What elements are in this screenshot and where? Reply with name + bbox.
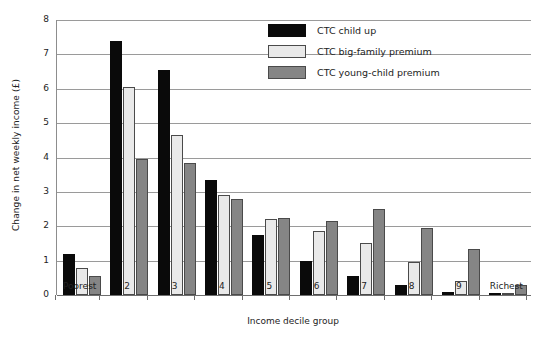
bar [184,163,196,295]
bar-group [110,20,148,295]
x-axis-tick-label: 5 [246,281,293,291]
x-axis-tick [99,295,100,300]
x-axis-tick-label: 9 [435,281,482,291]
x-axis-tick-label: Poorest [56,281,103,291]
y-axis-tick-label: 6 [27,83,49,93]
x-axis-tick-label: 3 [151,281,198,291]
bar [489,293,501,295]
legend-swatch-icon [268,45,306,58]
bar-chart-figure: Change in net weekly income (£) 01234567… [0,0,552,341]
x-axis-title: Income decile group [56,316,530,326]
bar-group [489,20,527,295]
bar [136,159,148,295]
x-axis-tick-label: 8 [388,281,435,291]
x-axis-tick-label: 4 [198,281,245,291]
x-axis-tick-label: Richest [483,281,530,291]
legend-swatch-icon [268,66,306,79]
y-axis-tick-label: 1 [27,255,49,265]
bar [158,70,170,295]
bar [110,41,122,295]
bar [442,292,454,295]
x-axis-tick-label: 7 [340,281,387,291]
y-axis-tick-label: 2 [27,220,49,230]
bar-group [205,20,243,295]
x-axis-tick [194,295,195,300]
bar [205,180,217,295]
y-axis-title: Change in net weekly income (£) [11,35,21,275]
bar-group [63,20,101,295]
legend-item: CTC big-family premium [268,43,468,59]
x-axis-tick [384,295,385,300]
legend-label: CTC young-child premium [317,67,440,78]
bar-group [158,20,196,295]
x-axis-tick-label: 2 [103,281,150,291]
y-axis-tick-label: 7 [27,48,49,58]
legend-item: CTC young-child premium [268,64,468,80]
y-axis-tick-label: 5 [27,117,49,127]
x-axis-tick [289,295,290,300]
x-axis-tick [479,295,480,300]
legend-item: CTC child up [268,22,468,38]
x-axis-tick [55,295,56,300]
x-axis-tick [336,295,337,300]
y-axis-tick-label: 8 [27,14,49,24]
x-axis-tick [431,295,432,300]
x-axis-tick [147,295,148,300]
x-axis-tick-label: 6 [293,281,340,291]
bar [171,135,183,295]
gridline [57,295,531,296]
chart-legend: CTC child upCTC big-family premiumCTC yo… [268,22,468,85]
x-axis-tick [526,295,527,300]
bar [123,87,135,295]
y-axis-tick-label: 4 [27,152,49,162]
y-axis-tick-label: 3 [27,186,49,196]
bar [502,293,514,295]
legend-label: CTC child up [317,25,376,36]
x-axis-tick [242,295,243,300]
legend-label: CTC big-family premium [317,46,432,57]
y-axis-tick-label: 0 [27,289,49,299]
legend-swatch-icon [268,24,306,37]
